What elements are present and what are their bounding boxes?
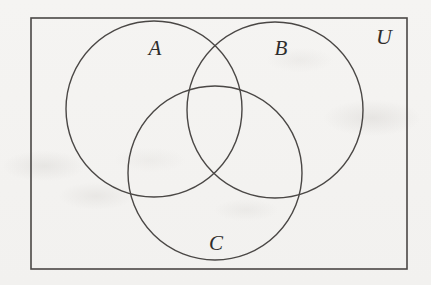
universal-set-label-u: U [376, 26, 392, 48]
set-label-c: C [209, 233, 223, 254]
set-label-a: A [149, 38, 162, 59]
venn-diagram-figure: A B C U [0, 0, 431, 285]
set-label-b: B [275, 38, 288, 59]
